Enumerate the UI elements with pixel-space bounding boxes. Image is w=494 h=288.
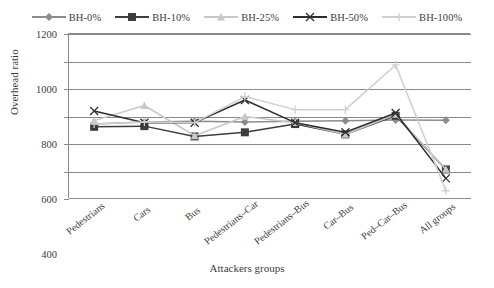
legend-label: BH-50%	[327, 12, 368, 23]
legend-marker	[127, 12, 137, 22]
legend-marker	[394, 12, 404, 22]
x-axis-tick-label: Bus	[183, 204, 202, 222]
y-axis-tick-label: 600	[41, 194, 57, 205]
series-bh-50	[90, 96, 450, 182]
plus-marker	[382, 10, 416, 24]
plus-marker	[291, 106, 299, 114]
x-axis-tick-label: Pedestrians–Bus	[252, 198, 311, 247]
chart-legend: BH-0%BH-10%BH-25%BH-50%BH-100%	[0, 8, 494, 26]
legend-marker	[305, 12, 315, 22]
x-axis-title: Attackers groups	[0, 262, 494, 274]
cross-marker	[442, 174, 450, 182]
x-axis-tick-label: Pedestrians–Car	[202, 198, 260, 247]
cross-marker	[306, 13, 314, 21]
x-axis-tick-label: Car–Bus	[321, 202, 355, 232]
series-line	[94, 100, 446, 178]
x-axis-tick-label: Cars	[131, 204, 152, 224]
legend-marker	[44, 12, 54, 22]
x-axis-tick-label: Pedestrians	[64, 200, 107, 237]
y-axis-tick-label: 400	[41, 249, 57, 260]
square-marker	[115, 10, 149, 24]
plot-area: 020040060080010001200	[68, 33, 470, 198]
legend-item-bh-100[interactable]: BH-100%	[382, 8, 462, 26]
x-axis-tick-label: Ped–Car–Bus	[359, 199, 409, 242]
legend-item-bh-50[interactable]: BH-50%	[293, 8, 368, 26]
y-axis-tick-label: 800	[41, 139, 57, 150]
legend-label: BH-25%	[238, 12, 279, 23]
plus-marker	[442, 187, 450, 195]
square-marker	[241, 128, 249, 136]
legend-item-bh-0[interactable]: BH-0%	[32, 8, 102, 26]
y-axis-tick-label: 1000	[36, 84, 57, 95]
cross-marker	[293, 10, 327, 24]
legend-item-bh-10[interactable]: BH-10%	[115, 8, 190, 26]
triangle-marker	[217, 13, 225, 20]
diamond-marker	[442, 116, 450, 124]
legend-label: BH-100%	[416, 12, 462, 23]
diamond-marker	[32, 10, 66, 24]
series-layer	[69, 34, 471, 199]
legend-label: BH-0%	[66, 12, 102, 23]
y-axis-tick: 0	[64, 199, 69, 200]
triangle-marker	[204, 10, 238, 24]
y-axis-tick-label: 1200	[36, 29, 57, 40]
diamond-marker	[341, 117, 349, 125]
legend-item-bh-25[interactable]: BH-25%	[204, 8, 279, 26]
legend-marker	[216, 12, 226, 22]
plus-marker	[395, 13, 403, 21]
legend-label: BH-10%	[149, 12, 190, 23]
triangle-marker	[140, 102, 148, 109]
y-axis-title: Overhead ratio	[8, 49, 20, 115]
plus-marker	[241, 93, 249, 101]
square-marker	[128, 13, 136, 21]
diamond-marker	[45, 13, 53, 21]
line-chart-figure: BH-0%BH-10%BH-25%BH-50%BH-100% Overhead …	[0, 0, 494, 288]
x-axis-tick-label: All groups	[417, 201, 457, 236]
